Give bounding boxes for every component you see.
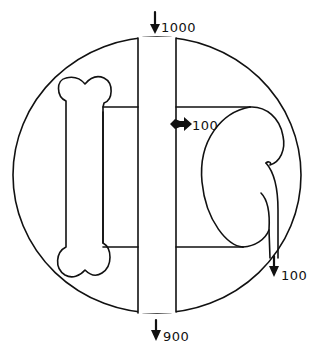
down-arrow-head-icon (269, 266, 279, 277)
central-tube (138, 37, 176, 313)
kidney-outflow-label: 100 (281, 268, 307, 283)
inflow-top-label: 1000 (161, 20, 196, 35)
outflow-bottom-label: 900 (163, 329, 189, 344)
left-chamber (103, 107, 138, 247)
down-arrow-head-icon (150, 24, 160, 34)
outflow-bottom-marker: 900 (151, 320, 189, 344)
flow-diagram: 1000 100 100 900 (0, 0, 320, 354)
kidney-shape (250, 107, 284, 165)
ureter (243, 163, 278, 258)
inflow-top-marker: 1000 (150, 12, 196, 35)
kidney-outflow-marker: 100 (269, 256, 307, 283)
down-arrow-head-icon (151, 330, 161, 341)
transfer-marker: 100 (170, 117, 218, 133)
transfer-label: 100 (192, 118, 218, 133)
